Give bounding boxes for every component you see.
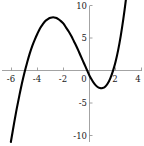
- x-axis-ticks: [12, 68, 142, 71]
- x-tick-label-0: 0: [81, 74, 86, 84]
- cubic-function-chart: -6 -4 -2 0 2 4 10 5 -5 -10: [0, 0, 144, 146]
- axes-group: [2, 6, 142, 142]
- plot-container: -6 -4 -2 0 2 4 10 5 -5 -10: [0, 0, 144, 146]
- y-tick-label--10: -10: [73, 131, 87, 141]
- y-tick-label--5: -5: [79, 98, 87, 108]
- x-tick-label-4: 4: [135, 74, 140, 84]
- cubic-curve: [11, 0, 130, 142]
- x-tick-label--6: -6: [7, 74, 15, 84]
- y-tick-label-5: 5: [82, 33, 87, 43]
- x-tick-label--2: -2: [59, 74, 67, 84]
- x-tick-label--4: -4: [33, 74, 41, 84]
- x-tick-label-2: 2: [112, 74, 117, 84]
- x-tick-labels: -6 -4 -2 0 2 4: [7, 74, 141, 84]
- y-tick-label-10: 10: [76, 1, 87, 11]
